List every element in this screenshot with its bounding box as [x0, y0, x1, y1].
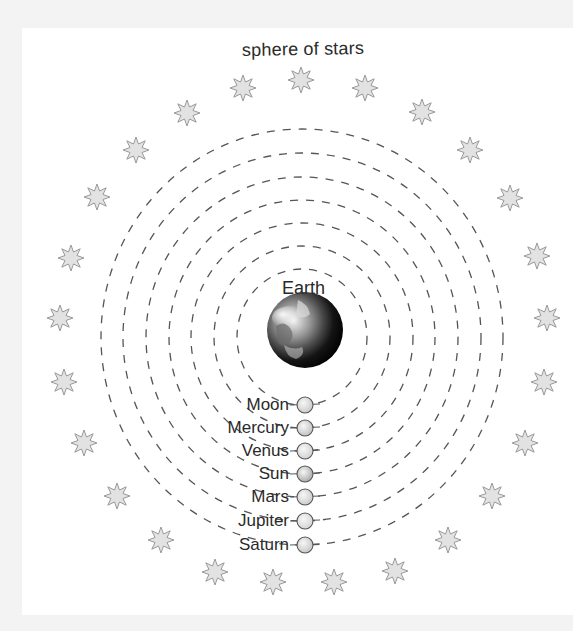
star-icon — [457, 137, 483, 163]
star-icon — [534, 305, 560, 331]
planet-label-mars: Mars — [169, 488, 289, 505]
planet-label-jupiter: Jupiter — [169, 512, 289, 529]
planet-moon-icon — [290, 397, 320, 413]
planet-sun-icon — [290, 466, 320, 482]
planet-markers — [290, 397, 320, 553]
star-icon — [58, 245, 84, 271]
star-icon — [230, 75, 256, 101]
star-icon — [71, 430, 97, 456]
star-icon — [512, 430, 538, 456]
star-icon — [435, 527, 461, 553]
star-icon — [497, 185, 523, 211]
star-icon — [524, 243, 550, 269]
planet-jupiter-icon — [290, 513, 320, 529]
star-icon — [84, 184, 110, 210]
planet-mars-icon — [290, 489, 320, 505]
diagram-title: sphere of stars — [242, 39, 364, 59]
planet-label-mercury: Mercury — [169, 419, 289, 436]
star-icon — [288, 67, 314, 93]
star-icon — [174, 100, 200, 126]
planet-venus-icon — [290, 443, 320, 459]
planet-mercury-icon — [290, 420, 320, 436]
earth-globe — [267, 292, 343, 368]
star-icon — [51, 369, 77, 395]
star-icon — [531, 369, 557, 395]
star-icon — [260, 569, 286, 595]
star-icon — [123, 137, 149, 163]
planet-label-venus: Venus — [169, 442, 289, 459]
star-icon — [47, 305, 73, 331]
planet-label-moon: Moon — [169, 396, 289, 413]
star-icon — [202, 559, 228, 585]
star-icon — [382, 558, 408, 584]
star-icon — [104, 483, 130, 509]
star-icon — [479, 483, 505, 509]
planet-label-saturn: Saturn — [169, 536, 289, 553]
star-icon — [321, 569, 347, 595]
star-icon — [352, 75, 378, 101]
star-icon — [409, 99, 435, 125]
earth-label: Earth — [282, 279, 325, 297]
planet-label-sun: Sun — [169, 465, 289, 482]
